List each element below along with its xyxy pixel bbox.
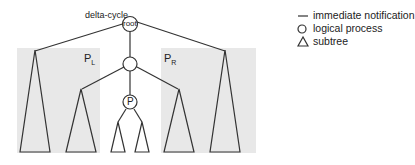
logical-process-node-icon (123, 57, 137, 71)
legend-item-immediate-notification: immediate notification (297, 9, 415, 22)
legend: immediate notification logical process s… (297, 9, 415, 48)
legend-item-subtree: subtree (297, 35, 415, 48)
partition-right-label: PR (164, 52, 176, 66)
edge-root-right (137, 22, 225, 51)
edge-p-left (118, 109, 126, 122)
process-p-label: P (127, 96, 134, 107)
triangle-icon (297, 35, 309, 48)
partition-right-sub: R (171, 59, 176, 66)
edge-p-right (134, 109, 142, 122)
root-label: root (123, 19, 137, 28)
partition-left-sub: L (91, 59, 95, 66)
subtree-icon (135, 122, 149, 152)
delta-cycle-label: delta-cycle (85, 10, 128, 20)
legend-label: immediate notification (313, 9, 415, 22)
legend-item-logical-process: logical process (297, 22, 415, 35)
legend-label: subtree (313, 35, 348, 48)
line-icon (297, 9, 309, 22)
subtree-icon (111, 122, 125, 152)
partition-left-label: PL (84, 52, 95, 66)
circle-icon (297, 22, 309, 35)
edge-root-left (35, 22, 129, 51)
legend-label: logical process (313, 22, 382, 35)
